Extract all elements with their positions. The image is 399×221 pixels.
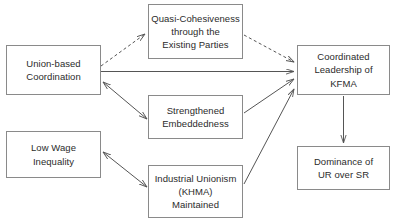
node-quasi-cohesiveness[interactable]: Quasi-Cohesiveness through the Existing … bbox=[148, 4, 243, 59]
node-label: Union-based Coordination bbox=[26, 57, 80, 83]
node-dominance-ur-over-sr[interactable]: Dominance of UR over SR bbox=[297, 146, 390, 190]
node-strengthened-embeddedness[interactable]: Strengthened Embeddedness bbox=[148, 95, 243, 139]
edge-union-to-embeddedness bbox=[103, 82, 147, 119]
node-low-wage-inequality[interactable]: Low Wage Inequality bbox=[6, 131, 101, 178]
edge-industrial-to-kfma bbox=[244, 89, 294, 184]
node-industrial-unionism-khma[interactable]: Industrial Unionism (KHMA) Maintained bbox=[148, 165, 243, 218]
node-union-based-coordination[interactable]: Union-based Coordination bbox=[6, 45, 101, 95]
node-label: Low Wage Inequality bbox=[31, 141, 76, 167]
node-label: Industrial Unionism (KHMA) Maintained bbox=[155, 172, 237, 211]
edge-lowwage-to-industrial bbox=[103, 152, 147, 187]
node-label: Coordinated Leadership of KFMA bbox=[314, 50, 372, 89]
edge-union-to-quasi bbox=[101, 34, 145, 66]
node-label: Dominance of UR over SR bbox=[314, 155, 373, 181]
edge-quasi-to-kfma bbox=[244, 35, 294, 62]
node-label: Quasi-Cohesiveness through the Existing … bbox=[151, 12, 240, 51]
diagram-canvas: Union-based Coordination Quasi-Cohesiven… bbox=[0, 0, 399, 221]
edge-embeddedness-to-kfma bbox=[244, 79, 294, 113]
node-coordinated-leadership-kfma[interactable]: Coordinated Leadership of KFMA bbox=[297, 45, 390, 95]
node-label: Strengthened Embeddedness bbox=[162, 104, 229, 130]
